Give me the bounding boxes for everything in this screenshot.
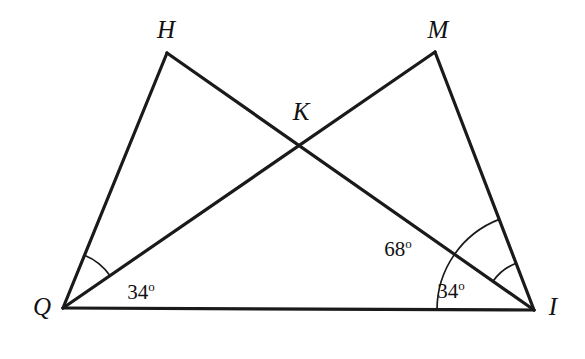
vertex-label-H: H <box>157 17 175 42</box>
angle-value-MIH: 34 <box>437 279 458 303</box>
segment-QH <box>63 53 167 308</box>
angle-arc-HQM <box>85 255 111 276</box>
segment-QI <box>63 308 534 310</box>
angle-value-MIQ: 68 <box>384 237 405 261</box>
angle-value-HQM: 34 <box>127 280 148 304</box>
angle-label-HQM: 34o <box>127 280 155 303</box>
segment-QM <box>63 52 435 308</box>
segment-MI <box>435 52 534 310</box>
angle-label-MIQ: 68o <box>384 237 412 260</box>
degree-symbol: o <box>458 278 465 293</box>
vertex-label-K: K <box>293 99 310 124</box>
geometry-diagram: Q H K M I 34o 68o 34o <box>0 0 585 359</box>
vertex-label-Q: Q <box>33 294 51 319</box>
angle-label-MIH: 34o <box>437 279 465 302</box>
degree-symbol: o <box>148 279 155 294</box>
segment-HI <box>167 53 534 310</box>
vertex-label-I: I <box>549 294 557 319</box>
segments-group <box>63 52 534 310</box>
vertex-label-M: M <box>428 17 449 42</box>
degree-symbol: o <box>405 236 412 251</box>
diagram-canvas <box>0 0 585 359</box>
angle-arc-MIH <box>493 263 516 281</box>
